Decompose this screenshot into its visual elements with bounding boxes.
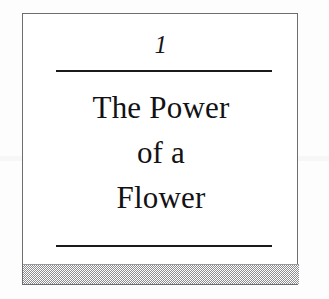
chapter-number: 1 [23,30,299,60]
horizontal-rule-below-title [56,245,272,247]
chapter-title: The Power of a Flower [23,85,299,220]
dithered-gray-band [23,264,299,284]
chapter-title-line-3: Flower [23,175,299,220]
chapter-opener-box: 1 The Power of a Flower [22,13,298,285]
scanned-page-canvas: 1 The Power of a Flower [0,0,329,299]
horizontal-rule-above-title [56,70,272,72]
chapter-title-line-2: of a [23,130,299,175]
chapter-title-line-1: The Power [23,85,299,130]
